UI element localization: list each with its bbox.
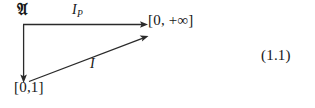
equation-number: (1.1) — [261, 47, 291, 64]
arrow-vertical — [20, 25, 27, 83]
arrow-diagonal — [29, 35, 149, 81]
node-codomain: [0, +∞] — [148, 13, 194, 28]
arrow-label-i: I — [90, 57, 95, 71]
arrow-label-ip-subscript: P — [77, 9, 83, 19]
arrow-label-ip: IP — [72, 3, 83, 20]
arrow-label-ip-base: I — [72, 2, 77, 17]
commutative-diagram: 𝔄 [0, +∞] [0,1] IP I (1.1) — [0, 0, 315, 108]
arrow-horizontal — [23, 21, 148, 28]
node-unit-interval: [0,1] — [14, 80, 44, 95]
node-algebra: 𝔄 — [17, 2, 28, 18]
